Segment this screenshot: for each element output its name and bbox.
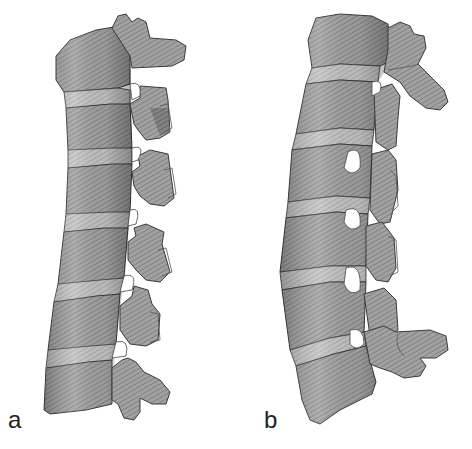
foramen-a3 — [128, 209, 138, 226]
spine-panel-a — [44, 14, 186, 420]
spine-illustration-figure — [0, 0, 472, 449]
foramen-b4 — [344, 267, 360, 293]
spinous-process-a6 — [112, 358, 170, 420]
lamina-a4 — [128, 224, 170, 282]
spinous-process-b6 — [364, 326, 448, 378]
panel-label-b: b — [264, 408, 277, 432]
foramen-b3 — [344, 209, 360, 229]
foramen-a1 — [130, 83, 140, 100]
lamina-b3 — [370, 150, 398, 224]
lamina-b4 — [366, 222, 396, 282]
lamina-b2 — [374, 84, 400, 150]
panel-label-a: a — [8, 408, 21, 432]
spine-panel-b — [280, 14, 448, 424]
lamina-a5 — [120, 286, 160, 346]
